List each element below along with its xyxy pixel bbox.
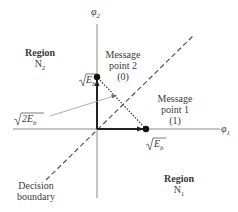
mp2-line2: point 2 (101, 60, 145, 71)
sqrt-eb-x-label: Eb (154, 138, 164, 154)
region-n1-name: N (174, 184, 181, 195)
region-n1-sub: 1 (181, 190, 185, 198)
mp1-line1: Message (153, 93, 197, 104)
mp2-line3: (0) (101, 71, 145, 82)
region-n1-title: Region (161, 173, 197, 184)
eb-y-sub: b (92, 80, 96, 88)
message-point-2-label: Message point 2 (0) (101, 49, 145, 82)
phi1-subscript: 1 (227, 129, 231, 137)
phi2-subscript: 2 (97, 12, 101, 20)
decision-boundary-label: Decision boundary (12, 180, 60, 202)
region-n2-name: N (35, 58, 42, 69)
phi1-axis-label: φ1 (221, 123, 230, 139)
arrowhead-icon (111, 95, 117, 99)
region-n2-title: Region (22, 47, 58, 58)
sqrt-2eb-pointer (50, 96, 114, 116)
phi2-axis-label: φ2 (91, 6, 100, 22)
region-n2-label: Region N2 (22, 47, 58, 74)
sqrt-eb-y-label: Eb (86, 74, 96, 90)
region-n2-sub: 2 (42, 64, 46, 72)
message-point-1-label: Message point 1 (1) (153, 93, 197, 126)
2eb-symbol: 2E (22, 113, 33, 124)
decision-line2: boundary (12, 191, 60, 202)
mp1-line2: point 1 (153, 104, 197, 115)
decision-line1: Decision (12, 180, 60, 191)
2eb-sub: b (33, 119, 37, 127)
eb-x-sub: b (160, 144, 164, 152)
sqrt-2eb-label: 2Eb (22, 113, 37, 129)
message-point-1 (143, 126, 149, 132)
distance-line (98, 78, 145, 128)
mp1-line3: (1) (153, 115, 197, 126)
region-n1-label: Region N1 (161, 173, 197, 200)
mp2-line1: Message (101, 49, 145, 60)
